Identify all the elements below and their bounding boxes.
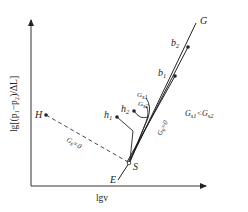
label-h1: h1 xyxy=(104,109,112,121)
label-gs0-line: Gs=0 xyxy=(156,119,171,137)
label-gs2: Gs2 xyxy=(138,100,150,109)
curve-h2 xyxy=(134,111,148,118)
x-axis-label: lgv xyxy=(96,193,108,203)
point-H xyxy=(44,113,48,117)
line-E-S xyxy=(118,163,129,180)
point-b2 xyxy=(186,45,190,49)
point-h2 xyxy=(132,109,136,113)
label-h2: h2 xyxy=(121,103,130,115)
point-h1 xyxy=(115,115,119,119)
point-S xyxy=(127,161,131,165)
y-axis-label: lg[(p₁−p₂)/ΔL] xyxy=(9,76,20,132)
label-b2: b2 xyxy=(171,37,180,49)
label-S: S xyxy=(133,161,138,172)
label-gs1: Gs1 xyxy=(137,91,148,100)
label-G: G xyxy=(200,15,207,26)
curve-h1 xyxy=(117,117,133,160)
annotation-gs1-lt-gs2: Gs1<Gs2 xyxy=(185,109,214,119)
line-H-S-dashed xyxy=(46,115,128,162)
label-gs0-dashed: Gs=0 xyxy=(65,136,83,152)
line-to-b1 xyxy=(127,76,175,162)
label-b1: b1 xyxy=(158,67,166,79)
label-E: E xyxy=(109,174,116,185)
point-b1 xyxy=(173,74,177,78)
label-H: H xyxy=(34,109,43,120)
diagram-canvas: lg[(p₁−p₂)/ΔL] lgv G b2 b1 H h1 h2 S E G… xyxy=(0,0,248,212)
